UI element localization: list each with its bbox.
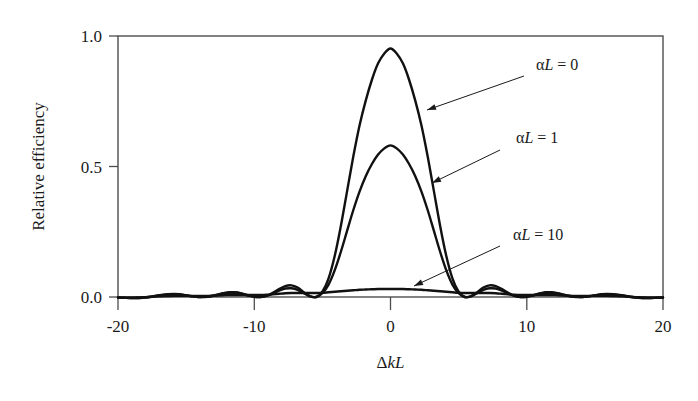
phase-matching-efficiency-chart: 1.0 0.5 0.0 -20 -10 0 10 20 ΔkL Relative…: [0, 0, 698, 401]
y-tick-label-1-0: 1.0: [81, 27, 102, 46]
annotation-label-alpha-l-10: αL = 10: [513, 226, 563, 243]
x-axis-title: ΔkL: [377, 353, 405, 372]
x-tick-label-20: 20: [655, 317, 672, 336]
annotation-1-l-symbol: L: [523, 129, 533, 146]
annotation-2-equals-value: = 10: [530, 226, 563, 243]
y-tick-label-0-0: 0.0: [81, 288, 102, 307]
y-tick-label-0-5: 0.5: [81, 158, 102, 177]
x-tick-label-minus-20: -20: [107, 317, 130, 336]
x-tick-label-10: 10: [518, 317, 535, 336]
annotation-1-equals-value: = 1: [533, 129, 558, 146]
chart-background: [0, 0, 698, 401]
annotation-label-alpha-l-0: αL = 0: [536, 56, 578, 73]
x-tick-label-minus-10: -10: [243, 317, 266, 336]
annotation-label-alpha-l-1: αL = 1: [516, 129, 558, 146]
annotation-0-l-symbol: L: [543, 56, 553, 73]
annotation-2-l-symbol: L: [520, 226, 530, 243]
annotation-0-equals-value: = 0: [553, 56, 578, 73]
y-axis-title: Relative efficiency: [29, 102, 48, 231]
x-tick-label-0: 0: [386, 317, 395, 336]
